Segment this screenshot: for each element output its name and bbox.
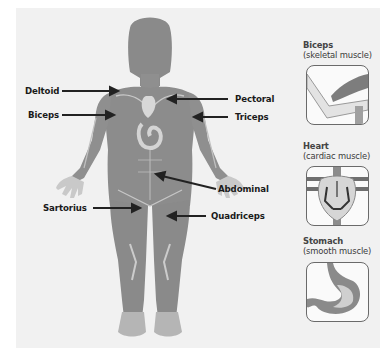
human-body-figure [0,0,290,351]
label-pectoral: Pectoral [235,94,274,104]
inset-stomach-subtitle: (smooth muscle) [303,246,371,256]
heart-cardiac-muscle-icon [307,167,368,225]
label-triceps: Triceps [235,112,269,122]
inset-biceps-caption: Biceps (skeletal muscle) [303,40,372,60]
inset-stomach-caption: Stomach (smooth muscle) [303,236,371,256]
inset-biceps-box [306,65,369,125]
stomach-smooth-muscle-icon [307,263,368,321]
label-biceps: Biceps [28,110,59,120]
inset-heart-box [306,166,369,226]
inset-biceps-title: Biceps [303,40,372,50]
inset-heart-title: Heart [303,141,370,151]
biceps-skeletal-muscle-icon [307,66,368,124]
label-deltoid: Deltoid [25,86,59,96]
inset-heart-subtitle: (cardiac muscle) [303,151,370,161]
inset-biceps-subtitle: (skeletal muscle) [303,50,372,60]
label-sartorius: Sartorius [43,203,87,213]
label-quadriceps: Quadriceps [211,211,265,221]
inset-stomach-title: Stomach [303,236,371,246]
inset-heart-caption: Heart (cardiac muscle) [303,141,370,161]
inset-stomach-box [306,262,369,322]
label-abdominal: Abdominal [218,184,269,194]
